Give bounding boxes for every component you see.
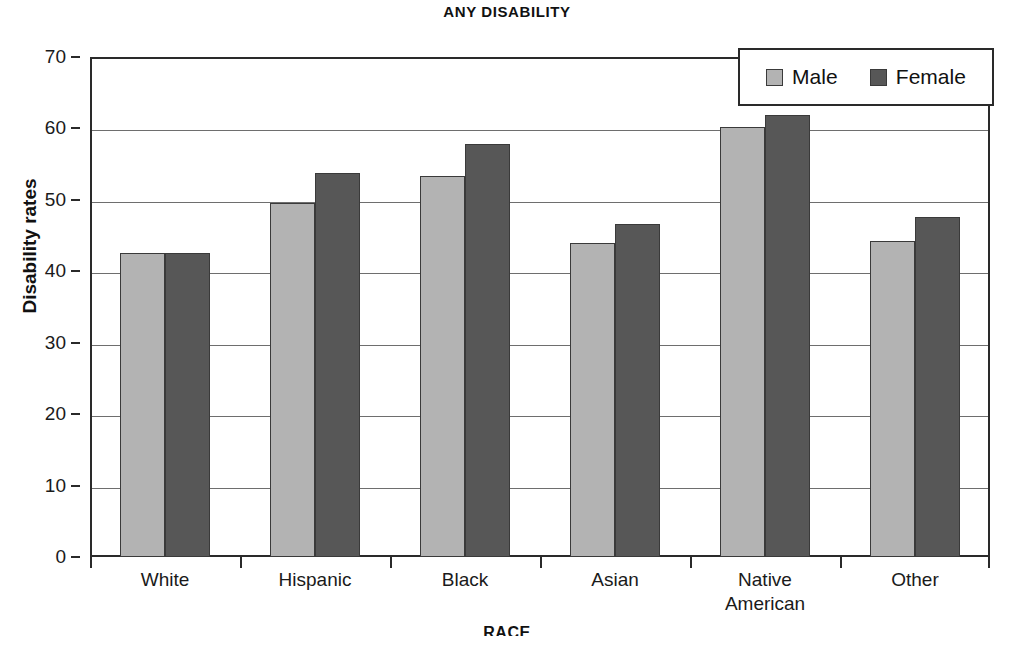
legend-item-female: Female: [870, 65, 966, 89]
legend-label-female: Female: [896, 65, 966, 89]
y-tick-mark: [71, 556, 80, 558]
y-tick-mark: [71, 199, 80, 201]
y-tick-label: 30: [45, 332, 66, 354]
y-tick-label: 40: [45, 260, 66, 282]
legend-swatch-female-icon: [870, 69, 887, 86]
bar-female-hispanic: [315, 173, 360, 557]
y-tick-mark: [71, 342, 80, 344]
x-tick-mark: [390, 557, 392, 568]
legend-item-male: Male: [766, 65, 838, 89]
x-tick-label: Black: [442, 568, 488, 592]
legend: Male Female: [738, 48, 994, 106]
x-tick-label: White: [141, 568, 190, 592]
x-tick-mark: [240, 557, 242, 568]
bar-male-other: [870, 241, 915, 557]
x-tick-label: Asian: [591, 568, 639, 592]
y-tick-mark: [71, 127, 80, 129]
legend-label-male: Male: [792, 65, 838, 89]
chart-title: ANY DISABILITY: [0, 3, 1014, 20]
y-tick-label: 50: [45, 189, 66, 211]
chart-figure: ANY DISABILITY Disability rates 01020304…: [0, 0, 1014, 668]
bar-male-white: [120, 253, 165, 557]
bars-layer: [90, 57, 990, 557]
x-axis: WhiteHispanicBlackAsianNative AmericanOt…: [90, 568, 990, 624]
y-tick-mark: [71, 270, 80, 272]
y-tick-label: 20: [45, 403, 66, 425]
x-tick-mark: [988, 557, 990, 568]
bar-female-other: [915, 217, 960, 557]
y-tick-label: 60: [45, 117, 66, 139]
x-tick-mark: [90, 557, 92, 568]
y-tick-label: 10: [45, 475, 66, 497]
bar-female-black: [465, 144, 510, 557]
y-tick-label: 70: [45, 46, 66, 68]
y-axis: 010203040506070: [0, 57, 80, 557]
x-tick-mark: [840, 557, 842, 568]
bar-female-native-american: [765, 115, 810, 557]
bar-female-asian: [615, 224, 660, 557]
legend-swatch-male-icon: [766, 69, 783, 86]
x-tick-label: Other: [891, 568, 939, 592]
scan-artifact: [0, 636, 1014, 668]
y-tick-mark: [71, 485, 80, 487]
bar-male-black: [420, 176, 465, 557]
bar-female-white: [165, 253, 210, 557]
x-tick-label: Hispanic: [279, 568, 352, 592]
y-tick-label: 0: [55, 546, 66, 568]
x-tick-mark: [690, 557, 692, 568]
bar-male-asian: [570, 243, 615, 557]
bar-male-native-american: [720, 127, 765, 557]
bar-male-hispanic: [270, 203, 315, 557]
x-tick-mark: [540, 557, 542, 568]
y-tick-mark: [71, 413, 80, 415]
y-tick-mark: [71, 56, 80, 58]
x-tick-label: Native American: [725, 568, 805, 616]
